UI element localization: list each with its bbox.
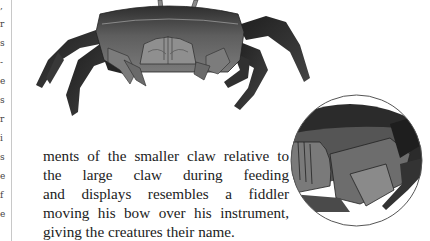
prev-fragment: e <box>0 210 5 219</box>
prev-fragment: - <box>0 58 3 67</box>
prev-fragment: i <box>0 134 3 143</box>
prev-fragment: s <box>0 153 5 162</box>
prev-fragment: s <box>0 96 5 105</box>
text-line: giving the creatures their name. <box>43 222 289 241</box>
prev-fragment: f <box>0 191 3 200</box>
previous-column-clipped: , r s - e s r i s e f e <box>0 0 11 241</box>
text-line: ments of the smaller claw relative to <box>43 146 289 165</box>
column-divider <box>11 0 12 241</box>
text-line: moving his bow over his instrument, <box>43 203 289 222</box>
prev-fragment: s <box>0 39 5 48</box>
crab-illustration <box>28 0 318 125</box>
text-line: and displays resembles a fiddler <box>43 184 289 203</box>
prev-fragment: r <box>0 20 4 29</box>
body-text: ments of the smaller claw relative to th… <box>43 146 289 241</box>
claw-closeup-inset <box>290 94 423 227</box>
prev-fragment: e <box>0 77 5 86</box>
text-line: the large claw during feeding <box>43 165 289 184</box>
prev-fragment: , <box>0 2 3 11</box>
prev-fragment: e <box>0 172 5 181</box>
prev-fragment: r <box>0 115 4 124</box>
